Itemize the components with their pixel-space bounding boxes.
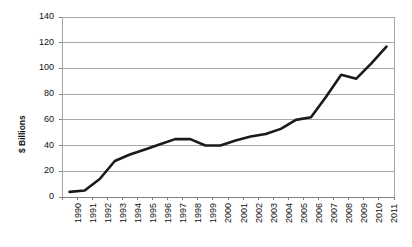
gridlines [62, 17, 394, 197]
plot-area [0, 0, 412, 247]
line-chart: $ Billions 020406080100120140 1990199119… [0, 0, 412, 247]
axis-frame [62, 17, 394, 197]
